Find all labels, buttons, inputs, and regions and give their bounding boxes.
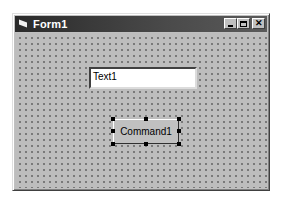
- resize-handle-w[interactable]: [111, 129, 115, 133]
- resize-handle-n[interactable]: [144, 117, 148, 121]
- maximize-icon: [240, 21, 247, 27]
- resize-handle-nw[interactable]: [111, 117, 115, 121]
- form-design-grid[interactable]: Text1 Command1: [15, 33, 267, 188]
- window-controls: ✕: [224, 18, 265, 29]
- title-bar[interactable]: Form1 ✕: [15, 16, 267, 32]
- text1-textbox[interactable]: Text1: [89, 67, 197, 89]
- minimize-button[interactable]: [224, 18, 237, 29]
- command1-button[interactable]: Command1: [113, 119, 179, 144]
- form-designer-window: Form1 ✕ Text1 Command1: [12, 13, 270, 191]
- resize-handle-s[interactable]: [144, 142, 148, 146]
- close-button[interactable]: ✕: [252, 18, 265, 29]
- window-title: Form1: [33, 18, 68, 30]
- minimize-icon: [228, 25, 233, 27]
- close-icon: ✕: [255, 19, 263, 28]
- resize-handle-se[interactable]: [177, 142, 181, 146]
- resize-handle-ne[interactable]: [177, 117, 181, 121]
- form-icon: [19, 20, 29, 28]
- command1-selection[interactable]: Command1: [113, 119, 179, 144]
- resize-handle-sw[interactable]: [111, 142, 115, 146]
- maximize-button[interactable]: [237, 18, 250, 29]
- resize-handle-e[interactable]: [177, 129, 181, 133]
